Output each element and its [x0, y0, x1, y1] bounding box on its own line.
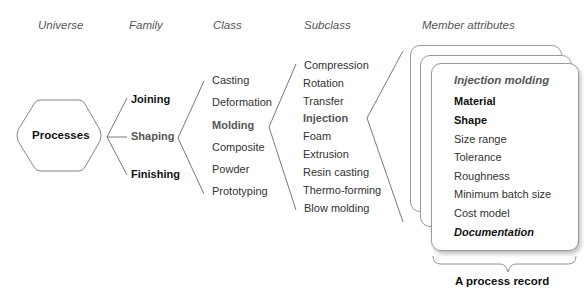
attr-shape: Shape — [454, 114, 487, 126]
class-composite: Composite — [212, 141, 265, 153]
subclass-compression: Compression — [304, 59, 369, 71]
attr-size-range: Size range — [454, 133, 507, 145]
header-class: Class — [213, 19, 242, 31]
subclass-thermo-forming: Thermo-forming — [303, 184, 381, 196]
header-universe: Universe — [38, 19, 83, 31]
header-family: Family — [129, 19, 163, 31]
attr-minimum-batch-size: Minimum batch size — [454, 188, 551, 200]
subclass-blow-molding: Blow molding — [304, 202, 369, 214]
attr-tolerance: Tolerance — [454, 151, 502, 163]
record-caption: A process record — [455, 275, 549, 287]
subclass-extrusion: Extrusion — [303, 148, 349, 160]
subclass-rotation: Rotation — [303, 77, 344, 89]
family-joining: Joining — [131, 93, 170, 105]
family-finishing: Finishing — [131, 168, 180, 180]
record-brace — [433, 256, 576, 272]
subclass-injection: Injection — [303, 112, 348, 124]
subclass-resin-casting: Resin casting — [303, 166, 369, 178]
subclass-foam: Foam — [303, 130, 331, 142]
attr-material: Material — [454, 95, 496, 107]
class-deformation: Deformation — [212, 96, 272, 108]
header-member-attributes: Member attributes — [422, 19, 515, 31]
class-casting: Casting — [212, 74, 249, 86]
family-shaping: Shaping — [131, 130, 174, 142]
class-prototyping: Prototyping — [212, 185, 268, 197]
attr-documentation: Documentation — [454, 226, 534, 238]
class-powder: Powder — [212, 163, 249, 175]
attr-roughness: Roughness — [454, 170, 510, 182]
universe-processes: Processes — [32, 129, 90, 141]
class-molding: Molding — [212, 119, 254, 131]
subclass-transfer: Transfer — [303, 95, 344, 107]
record-title: Injection molding — [454, 74, 549, 86]
header-subclass: Subclass — [304, 19, 351, 31]
record-card: Injection molding Material Shape Size ra… — [431, 63, 579, 251]
attr-cost-model: Cost model — [454, 207, 510, 219]
